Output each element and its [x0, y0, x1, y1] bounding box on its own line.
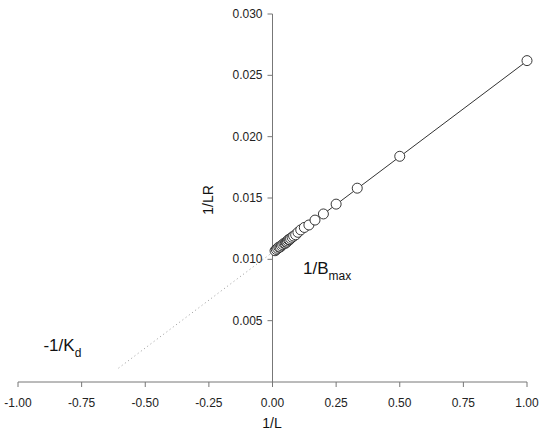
data-point — [310, 215, 320, 225]
y-axis-title: 1/LR — [200, 185, 216, 215]
data-point — [352, 183, 362, 193]
annotations: 1/Bmax-1/Kd — [43, 259, 351, 360]
y-tick-label: 0.020 — [232, 130, 262, 144]
y-tick-label: 0.025 — [232, 68, 262, 82]
annotation: -1/Kd — [43, 336, 81, 360]
data-points — [270, 56, 532, 256]
axis-labels: -1.00-0.75-0.50-0.250.000.250.500.751.00… — [4, 7, 539, 410]
y-tick-label: 0.010 — [232, 252, 262, 266]
data-point — [331, 199, 341, 209]
data-point — [318, 209, 328, 219]
x-tick-label: -1.00 — [4, 396, 32, 410]
x-tick-label: 1.00 — [515, 396, 539, 410]
x-tick-label: -0.75 — [68, 396, 96, 410]
x-tick-label: 0.50 — [388, 396, 412, 410]
data-point — [395, 151, 405, 161]
extrapolation-line — [119, 252, 273, 368]
x-tick-label: 0.25 — [324, 396, 348, 410]
axes — [18, 14, 527, 387]
x-tick-label: -0.50 — [132, 396, 160, 410]
data-point — [522, 56, 532, 66]
extrapolation-dotted-line — [119, 252, 273, 368]
x-tick-label: -0.25 — [195, 396, 223, 410]
x-axis-title: 1/L — [262, 415, 282, 431]
x-tick-label: 0.00 — [261, 396, 285, 410]
y-tick-label: 0.015 — [232, 191, 262, 205]
x-tick-label: 0.75 — [452, 396, 476, 410]
lineweaver-burk-plot: -1.00-0.75-0.50-0.250.000.250.500.751.00… — [0, 0, 546, 442]
annotation: 1/Bmax — [303, 259, 351, 283]
y-tick-label: 0.030 — [232, 7, 262, 21]
y-tick-label: 0.005 — [232, 314, 262, 328]
